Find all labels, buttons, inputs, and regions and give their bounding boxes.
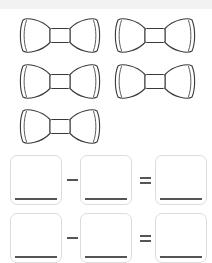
write-line [85, 198, 127, 200]
bow-tie-icon [112, 13, 198, 58]
bow-tie-icon [112, 59, 198, 104]
worksheet-page [0, 0, 212, 263]
equals-sign-icon [137, 213, 153, 263]
equals-sign-icon [137, 155, 153, 205]
minuend-answer-box[interactable] [10, 213, 62, 263]
page-top-band [0, 0, 212, 9]
write-line [15, 198, 57, 200]
write-line [160, 198, 202, 200]
minus-sign-icon [64, 213, 80, 263]
write-line [85, 256, 127, 258]
result-answer-box[interactable] [155, 155, 207, 205]
equation-row [0, 213, 212, 263]
bow-tie-icon [17, 104, 103, 149]
minus-sign-icon [64, 155, 80, 205]
subtrahend-answer-box[interactable] [80, 155, 132, 205]
write-line [160, 256, 202, 258]
write-line [15, 256, 57, 258]
equation-row [0, 155, 212, 207]
bow-tie-icon [17, 59, 103, 104]
subtrahend-answer-box[interactable] [80, 213, 132, 263]
bow-tie-icon [17, 13, 103, 58]
result-answer-box[interactable] [155, 213, 207, 263]
minuend-answer-box[interactable] [10, 155, 62, 205]
